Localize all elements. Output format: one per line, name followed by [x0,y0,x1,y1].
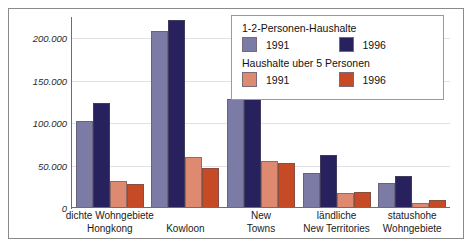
legend-entry-1991-large: 1991 [242,72,339,87]
chart-legend: 1-2-Personen-Haushalte 1991 1996 Haushal… [231,15,444,100]
y-axis-tick-label: 200.000 [9,33,67,44]
x-axis-labels: dichte WohngebieteHongkong KowloonNewTow… [72,210,450,238]
bar-group [151,17,219,208]
bar[interactable] [227,99,244,208]
y-axis-tick-label: 150.000 [9,75,67,86]
legend-row-1: 1991 1996 [242,37,435,52]
bar[interactable] [303,173,320,208]
y-axis-labels: 050.000100.000150.000200.000 [9,17,67,208]
x-axis-category-label: statushoheWohngebiete [352,210,472,235]
legend-swatch-icon-salmon [242,72,257,87]
bar[interactable] [337,193,354,208]
bar[interactable] [127,184,144,208]
bar[interactable] [278,163,295,208]
bar[interactable] [110,181,127,208]
legend-swatch-icon-orange [339,72,354,87]
bar[interactable] [151,31,168,208]
legend-label-1996-large: 1996 [363,74,386,86]
legend-label-1991-large: 1991 [266,74,289,86]
x-label-line1: statushohe [352,210,472,223]
legend-entry-1991-small: 1991 [242,37,339,52]
legend-label-1991-small: 1991 [266,39,289,51]
legend-group-title-2: Haushalte uber 5 Personen [242,57,435,69]
legend-entry-1996-small: 1996 [339,37,436,52]
bar[interactable] [76,121,93,208]
legend-row-2: 1991 1996 [242,72,435,87]
bar[interactable] [261,161,278,208]
bar[interactable] [168,20,185,208]
chart-frame: 050.000100.000150.000200.000 dichte Wohn… [8,8,464,239]
bar-group [76,17,144,208]
bar[interactable] [378,183,395,208]
bar[interactable] [202,168,219,208]
x-axis-line [72,207,450,208]
x-label-line2: Wohngebiete [352,223,472,236]
legend-label-1996-small: 1996 [363,39,386,51]
bar[interactable] [354,192,371,208]
bar[interactable] [395,176,412,208]
bar[interactable] [93,103,110,208]
legend-swatch-icon-light-purple [242,37,257,52]
bar[interactable] [320,155,337,208]
legend-swatch-icon-dark-navy [339,37,354,52]
y-axis-tick-label: 100.000 [9,118,67,129]
legend-entry-1996-large: 1996 [339,72,436,87]
legend-group-title-1: 1-2-Personen-Haushalte [242,22,435,34]
bar[interactable] [185,157,202,208]
y-axis-tick-label: 50.000 [9,160,67,171]
